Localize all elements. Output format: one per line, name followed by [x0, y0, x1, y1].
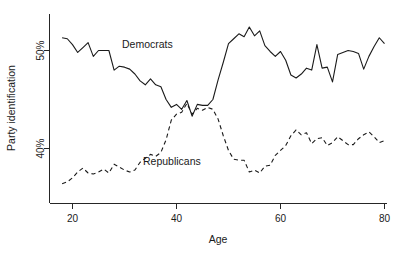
- y-tick-label-50: 50%: [35, 40, 46, 60]
- x-axis-title: Age: [209, 233, 228, 245]
- chart-figure: 50% 40% 20 40 60 80 Party identification…: [0, 0, 409, 260]
- x-tick-label-40: 40: [171, 213, 183, 224]
- party-identification-line-chart: 50% 40% 20 40 60 80 Party identification…: [0, 0, 409, 260]
- x-tick-label-20: 20: [67, 213, 79, 224]
- x-tick-label-60: 60: [275, 213, 287, 224]
- democrats-series-label: Democrats: [122, 38, 173, 50]
- democrats-line: [62, 27, 384, 116]
- republicans-line: [62, 103, 384, 183]
- republicans-series-label: Republicans: [143, 155, 201, 167]
- y-tick-label-40: 40%: [35, 138, 46, 158]
- y-axis-title: Party identification: [5, 65, 17, 151]
- x-tick-label-80: 80: [379, 213, 391, 224]
